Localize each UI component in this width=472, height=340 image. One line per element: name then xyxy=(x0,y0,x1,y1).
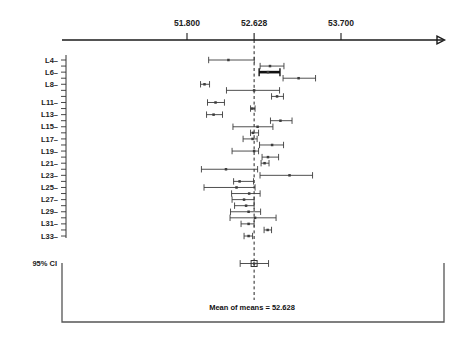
interval-row-L7 xyxy=(283,75,316,81)
interval-mean-marker-L14 xyxy=(279,119,282,122)
summary-box-frame xyxy=(62,263,444,322)
interval-mean-marker-L4 xyxy=(227,59,230,62)
interval-mean-marker-L32 xyxy=(266,229,269,232)
summary-box: 95% CI Mean of means = 52.628 xyxy=(32,259,444,322)
summary-mean-marker xyxy=(253,262,255,264)
x-axis: 51.80052.62853.700 xyxy=(62,18,445,44)
interval-row-L30 xyxy=(230,215,276,221)
y-axis-tick-label-L23: L23– xyxy=(41,171,58,180)
interval-row-L26 xyxy=(232,190,261,196)
interval-row-L11 xyxy=(208,99,225,105)
interval-row-L10 xyxy=(272,93,284,99)
y-axis-tick-label-L4: L4– xyxy=(45,56,58,65)
interval-mean-marker-L17 xyxy=(251,138,254,141)
interval-mean-marker-L20 xyxy=(267,156,270,159)
x-axis-tick-labels: 51.80052.62853.700 xyxy=(174,18,354,28)
y-axis-tick-label-L27: L27– xyxy=(41,195,58,204)
interval-mean-marker-L22 xyxy=(225,168,228,171)
interval-mean-marker-L10 xyxy=(276,95,279,98)
interval-row-L25 xyxy=(204,184,255,190)
interval-mean-marker-L13 xyxy=(212,113,215,116)
interval-mean-marker-L11 xyxy=(214,101,217,104)
interval-row-L24 xyxy=(234,178,254,184)
interval-row-L21 xyxy=(261,160,269,166)
y-axis-tick-label-L13: L13– xyxy=(41,110,58,119)
interval-mean-marker-L9 xyxy=(253,89,256,92)
interval-mean-marker-L25 xyxy=(235,186,238,189)
interval-row-L29 xyxy=(231,209,261,215)
y-axis: L4–L6–L8–L11–L13–L15–L17–L19–L21–L23–L25… xyxy=(41,55,66,241)
y-axis-tick-label-L6: L6– xyxy=(45,68,58,77)
y-axis-tick-label-L15: L15– xyxy=(41,122,58,131)
interval-row-L4 xyxy=(209,57,255,63)
interval-row-L33 xyxy=(244,233,253,239)
y-axis-ticks xyxy=(61,60,66,236)
interval-row-L22 xyxy=(201,166,257,172)
interval-row-L8 xyxy=(201,81,210,87)
interval-mean-marker-L7 xyxy=(297,77,300,80)
interval-mean-marker-L8 xyxy=(203,83,206,86)
x-axis-tick-label-2: 53.700 xyxy=(328,18,354,28)
interval-row-L14 xyxy=(270,118,292,124)
interval-mean-marker-L28 xyxy=(245,204,248,207)
interval-mean-marker-L5 xyxy=(269,65,272,68)
interval-mean-marker-L31 xyxy=(247,223,250,226)
interval-mean-marker-L29 xyxy=(247,211,250,214)
interval-mean-marker-L16 xyxy=(252,132,255,135)
interval-mean-marker-L26 xyxy=(248,192,251,195)
y-axis-tick-labels: L4–L6–L8–L11–L13–L15–L17–L19–L21–L23–L25… xyxy=(41,56,58,241)
interval-mean-marker-L15 xyxy=(256,126,259,128)
interval-row-L28 xyxy=(235,202,255,208)
y-axis-tick-label-L11: L11– xyxy=(41,98,58,107)
interval-mean-marker-L27 xyxy=(243,198,246,201)
y-axis-tick-label-L33: L33– xyxy=(41,232,58,241)
interval-mean-marker-L12 xyxy=(251,107,254,110)
y-axis-tick-label-L31: L31– xyxy=(41,219,58,228)
interval-row-L17 xyxy=(243,136,257,142)
interval-series xyxy=(201,57,316,239)
interval-row-L32 xyxy=(264,227,271,233)
interval-row-L9 xyxy=(226,87,279,93)
mean-of-means-label: Mean of means = 52.628 xyxy=(209,303,295,312)
y-axis-tick-label-L8: L8– xyxy=(45,80,58,89)
interval-row-L12 xyxy=(251,105,256,111)
interval-mean-marker-L18 xyxy=(271,144,274,147)
interval-mean-marker-L19 xyxy=(253,150,256,153)
summary-ci-label: 95% CI xyxy=(32,259,57,268)
interval-row-L18 xyxy=(260,142,284,148)
interval-row-L31 xyxy=(241,221,254,227)
x-axis-tick-label-0: 51.800 xyxy=(174,18,200,28)
y-axis-tick-label-L21: L21– xyxy=(41,159,58,168)
y-axis-tick-label-L25: L25– xyxy=(41,183,58,192)
interval-row-L6 xyxy=(259,68,280,76)
confidence-interval-chart: 51.80052.62853.700 L4–L6–L8–L11–L13–L15–… xyxy=(0,0,472,340)
interval-mean-marker-L33 xyxy=(247,235,250,238)
interval-mean-marker-L30 xyxy=(254,217,257,220)
interval-row-L23 xyxy=(260,172,313,178)
chart-canvas: 51.80052.62853.700 L4–L6–L8–L11–L13–L15–… xyxy=(0,0,472,340)
interval-row-L15 xyxy=(233,124,273,130)
x-axis-tick-label-1: 52.628 xyxy=(241,18,267,28)
interval-mean-marker-L23 xyxy=(288,174,291,177)
interval-mean-marker-L6 xyxy=(267,71,270,74)
interval-row-L13 xyxy=(207,111,223,117)
y-axis-tick-label-L17: L17– xyxy=(41,135,58,144)
interval-mean-marker-L24 xyxy=(238,180,241,183)
y-axis-tick-label-L19: L19– xyxy=(41,147,58,156)
interval-row-L27 xyxy=(232,196,254,202)
x-axis-ticks xyxy=(187,33,341,40)
y-axis-tick-label-L29: L29– xyxy=(41,207,58,216)
interval-row-L20 xyxy=(262,154,279,160)
interval-mean-marker-L21 xyxy=(263,162,266,165)
